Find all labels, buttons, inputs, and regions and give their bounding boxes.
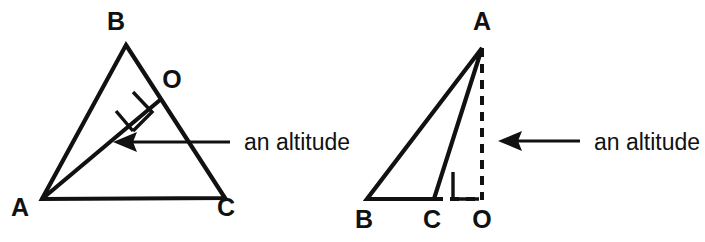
right-vertex-label-c: C [423,205,441,233]
left-altitude-segment [42,100,160,199]
left-annotation-arrow [113,132,230,152]
figure-container: an altitude B O A C an altitude A B C O [0,0,705,242]
right-vertex-label-a: A [473,7,491,35]
right-right-angle-marker [453,172,479,199]
right-panel-group: an altitude A B C O [355,7,700,233]
right-annotation-label: an altitude [594,129,700,155]
altitude-diagram-svg: an altitude B O A C an altitude A B C O [0,0,705,242]
left-vertex-label-a: A [11,193,29,221]
right-annotation-arrow [498,131,580,151]
left-vertex-label-c: C [217,193,235,221]
left-annotation-label: an altitude [244,129,350,155]
right-vertex-label-b: B [355,205,373,233]
left-panel-group: an altitude B O A C [11,7,350,221]
left-vertex-label-o: O [162,65,181,93]
right-triangle-outline [367,48,482,199]
right-vertex-label-o: O [472,205,491,233]
left-vertex-label-b: B [107,7,125,35]
